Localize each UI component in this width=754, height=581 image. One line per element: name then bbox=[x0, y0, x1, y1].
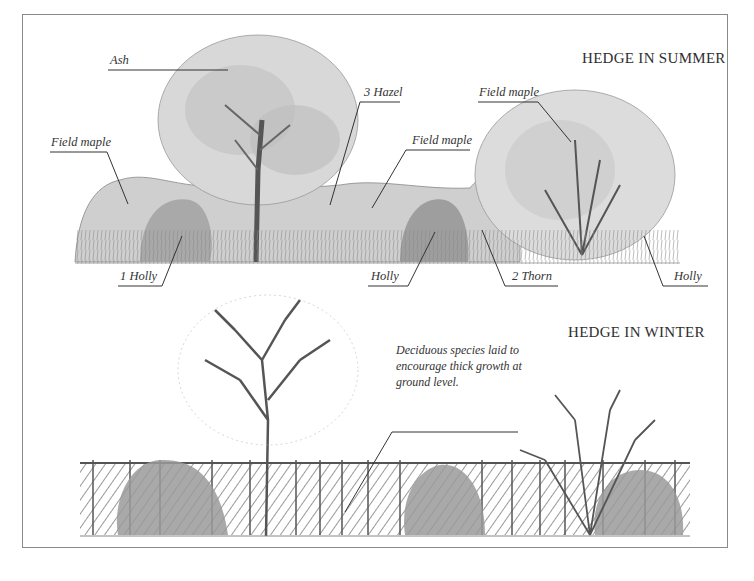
summer-title: HEDGE IN SUMMER bbox=[582, 50, 726, 67]
winter-note: Deciduous species laid to encourage thic… bbox=[396, 342, 526, 390]
label-holly-right: Holly bbox=[674, 269, 702, 284]
label-field-maple-right: Field maple bbox=[479, 85, 539, 100]
label-field-maple-mid: Field maple bbox=[412, 133, 472, 148]
winter-title: HEDGE IN WINTER bbox=[568, 324, 705, 341]
label-field-maple-left: Field maple bbox=[51, 135, 111, 150]
label-ash: Ash bbox=[110, 53, 129, 68]
label-thorn: 2 Thorn bbox=[512, 269, 552, 284]
label-hazel: 3 Hazel bbox=[364, 85, 403, 100]
summer-hedge bbox=[75, 35, 680, 264]
label-holly-1: 1 Holly bbox=[120, 269, 157, 284]
label-holly-mid: Holly bbox=[371, 269, 399, 284]
